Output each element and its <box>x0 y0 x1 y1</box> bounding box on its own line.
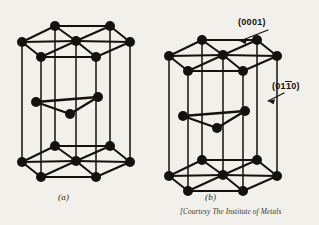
miller-index-basal-label: (0001) <box>238 17 266 27</box>
unit-cell-a <box>17 21 135 182</box>
caption-a: (a) <box>58 192 69 202</box>
prism-plane-arrow <box>268 93 284 104</box>
unit-cell-b <box>164 35 282 196</box>
figure-root: (0001) (0110) (a) (b) [Courtesy The Inst… <box>0 0 319 225</box>
credit-line: [Courtesy The Institute of Metals <box>180 207 281 216</box>
caption-b: (b) <box>205 192 216 202</box>
miller-index-prism-label: (0110) <box>272 81 300 91</box>
hcp-unit-cell-diagram <box>0 0 319 225</box>
overbar-digit: 1 <box>286 81 291 91</box>
